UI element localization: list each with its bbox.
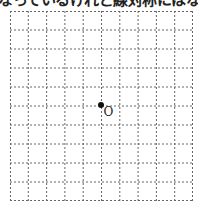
origin-label: O xyxy=(104,106,114,118)
caption-text: なっているけれど線対称にはなっている xyxy=(0,0,198,9)
